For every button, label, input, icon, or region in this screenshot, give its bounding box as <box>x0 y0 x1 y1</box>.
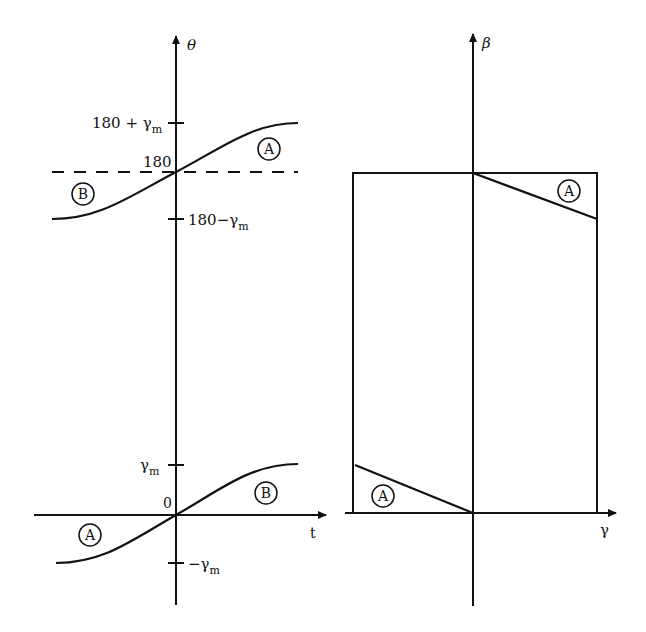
region-label-lower-left: A <box>372 485 394 507</box>
region-label-upper-left: B <box>72 183 94 205</box>
svg-text:A: A <box>84 527 96 543</box>
svg-text:A: A <box>263 141 275 157</box>
region-label-lower-left: A <box>79 524 101 546</box>
domain-rectangle <box>353 173 597 513</box>
svg-text:A: A <box>377 488 389 504</box>
lower-boundary-line <box>355 465 473 513</box>
label-180: 180 <box>143 153 172 171</box>
t-axis-label: t <box>310 525 316 541</box>
right-panel: β γ A A <box>345 34 616 606</box>
gamma-axis-label: γ <box>600 521 609 539</box>
label-gamma-m: γm <box>140 456 160 478</box>
label-180-minus-gamma-m: 180−γm <box>188 211 249 233</box>
diagram-canvas: θ t 180 + γm 180 180−γm γm 0 −γm <box>0 0 646 632</box>
svg-text:A: A <box>563 183 575 199</box>
region-label-upper-right: A <box>558 180 580 202</box>
label-minus-gamma-m: −γm <box>188 555 221 577</box>
label-180-plus-gamma-m: 180 + γm <box>92 114 163 136</box>
region-label-lower-right: B <box>255 482 277 504</box>
theta-axis-label: θ <box>187 36 196 54</box>
label-origin-0: 0 <box>163 495 172 511</box>
region-label-upper-right: A <box>258 138 280 160</box>
svg-text:B: B <box>261 485 271 501</box>
beta-axis-label: β <box>481 34 491 52</box>
left-panel: θ t 180 + γm 180 180−γm γm 0 −γm <box>34 36 326 605</box>
svg-text:B: B <box>78 186 88 202</box>
